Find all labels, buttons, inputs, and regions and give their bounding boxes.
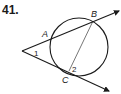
chord-bc: [69, 21, 93, 71]
angle-2-label: 2: [72, 65, 77, 74]
label-c: C: [62, 75, 69, 85]
secant-ray: [22, 11, 119, 51]
angle-1-label: 1: [34, 49, 39, 58]
label-b: B: [91, 9, 97, 19]
label-a: A: [41, 29, 48, 39]
geometry-diagram: A B C 1 2: [0, 0, 121, 94]
